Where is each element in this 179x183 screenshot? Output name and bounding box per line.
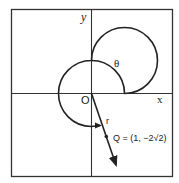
- y-axis-label: y: [80, 10, 87, 24]
- origin-label: O: [81, 94, 90, 106]
- radius-ray: [92, 94, 117, 166]
- point-q-label: Q = (1, −2√2): [113, 133, 166, 143]
- angle-arc-upper-right: [92, 61, 125, 94]
- angle-theta-label: θ: [114, 57, 119, 69]
- diagram-canvas: y x O θ r Q = (1, −2√2): [0, 0, 179, 183]
- polar-diagram: y x O θ r Q = (1, −2√2): [0, 0, 179, 183]
- point-q-dot: [105, 135, 109, 139]
- x-axis-label: x: [157, 93, 163, 105]
- angle-arc: [59, 28, 158, 127]
- radius-r-label: r: [106, 116, 109, 126]
